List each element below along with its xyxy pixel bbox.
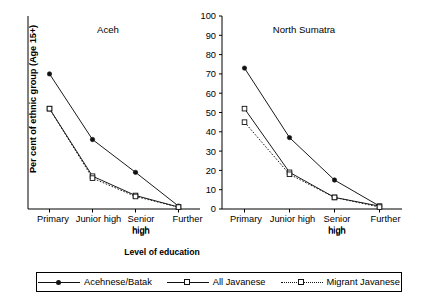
open-square-icon (184, 279, 190, 285)
legend-swatch-acehnese-batak (38, 277, 80, 287)
x-label-senior-ns-line2: high (316, 226, 358, 237)
panel-aceh: Aceh (28, 0, 208, 215)
series-line-1 (245, 109, 380, 206)
x-label-further-ns: Further (358, 214, 413, 225)
data-point-open-square (133, 194, 138, 199)
data-point-filled-diamond (287, 135, 291, 139)
series-line-2 (50, 109, 179, 207)
panel-north-sumatra: North Sumatra 0102030405060708090100 (222, 0, 412, 215)
data-point-open-square (176, 205, 181, 210)
panel-aceh-plot (28, 0, 208, 215)
filled-diamond-icon (56, 280, 61, 285)
data-point-open-square (332, 195, 337, 200)
data-point-filled-diamond (332, 178, 336, 182)
legend-swatch-all-javanese (167, 277, 209, 287)
legend-label-all-javanese: All Javanese (213, 277, 266, 287)
data-point-open-square (287, 172, 292, 177)
series-line-1 (50, 109, 179, 207)
x-label-senior-aceh-line2: high (120, 226, 162, 237)
open-square-icon (298, 279, 304, 285)
legend-label-acehnese-batak: Acehnese/Batak (84, 277, 152, 287)
y-tick-label: 100 (200, 11, 216, 21)
data-point-filled-diamond (90, 137, 94, 141)
data-point-open-square (47, 106, 52, 111)
legend-item-migrant-javanese: Migrant Javanese (281, 277, 400, 287)
legend-swatch-migrant-javanese (281, 277, 323, 287)
legend-item-acehnese-batak: Acehnese/Batak (38, 277, 152, 287)
x-axis-title: Level of education (62, 247, 262, 257)
legend-item-all-javanese: All Javanese (167, 277, 266, 287)
y-tick-label: 0 (211, 204, 216, 214)
data-point-filled-diamond (47, 72, 51, 76)
y-tick-label: 30 (206, 147, 216, 157)
data-point-open-square (90, 176, 95, 181)
chart-figure: Per cent of ethnic group (Age 15+) Aceh … (0, 0, 426, 301)
y-tick-label: 70 (206, 69, 216, 79)
data-point-filled-diamond (242, 66, 246, 70)
y-tick-label: 20 (206, 166, 216, 176)
data-point-filled-diamond (133, 170, 137, 174)
legend-label-migrant-javanese: Migrant Javanese (327, 277, 400, 287)
data-point-open-square (242, 106, 247, 111)
y-tick-label: 50 (206, 108, 216, 118)
data-point-open-square (377, 205, 382, 210)
y-tick-label: 40 (206, 127, 216, 137)
y-tick-label: 10 (206, 185, 216, 195)
y-tick-label: 80 (206, 50, 216, 60)
y-tick-label: 60 (206, 89, 216, 99)
x-label-further-aceh: Further (160, 214, 215, 225)
panel-north-sumatra-plot: 0102030405060708090100 (222, 0, 412, 215)
y-tick-label: 90 (206, 31, 216, 41)
data-point-open-square (242, 120, 247, 125)
legend: Acehnese/Batak All Javanese Migrant Java… (36, 272, 402, 292)
